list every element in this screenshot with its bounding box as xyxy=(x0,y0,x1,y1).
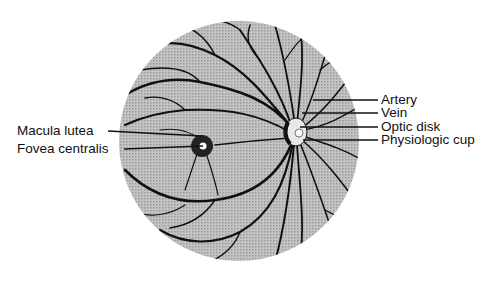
fundus-disc xyxy=(119,21,359,261)
label-vein: Vein xyxy=(381,106,407,120)
optic-disk-shape xyxy=(285,118,307,146)
label-fovea-centralis: Fovea centralis xyxy=(17,142,109,156)
label-physiologic-cup: Physiologic cup xyxy=(381,133,475,147)
label-macula-lutea: Macula lutea xyxy=(17,124,94,138)
physiologic-cup-shape xyxy=(295,129,303,137)
